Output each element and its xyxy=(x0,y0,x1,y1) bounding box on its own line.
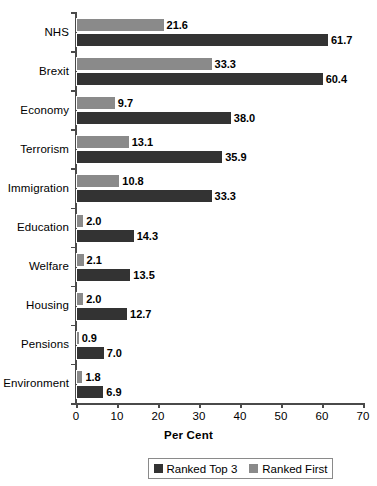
x-axis-tick xyxy=(158,403,160,408)
bar-value-label: 38.0 xyxy=(234,112,255,124)
y-axis-tick xyxy=(71,12,76,14)
bar-ranked-first: 33.3 xyxy=(76,57,213,71)
x-axis-tick-label: 30 xyxy=(193,410,206,422)
category-label: Brexit xyxy=(39,65,69,77)
bar-ranked-top-3: 6.9 xyxy=(76,385,104,399)
category-row: NHS21.661.7 xyxy=(76,12,363,51)
bar-ranked-top-3: 12.7 xyxy=(76,307,128,321)
bar-ranked-first: 21.6 xyxy=(76,18,165,32)
category-label: Education xyxy=(17,221,69,233)
legend-swatch-icon-top3 xyxy=(154,464,163,473)
bar-ranked-top-3: 60.4 xyxy=(76,72,324,86)
legend-swatch-icon-first xyxy=(249,464,258,473)
bar-ranked-first: 2.0 xyxy=(76,292,84,306)
y-axis-tick xyxy=(71,168,76,170)
x-axis-tick xyxy=(240,403,242,408)
category-row: Education2.014.3 xyxy=(76,208,363,247)
bar-ranked-first: 1.8 xyxy=(76,370,83,384)
bar-value-label: 33.3 xyxy=(215,190,236,202)
bar-ranked-first: 0.9 xyxy=(76,331,80,345)
y-axis-tick xyxy=(71,325,76,327)
bar-ranked-top-3: 35.9 xyxy=(76,150,223,164)
category-row: Terrorism13.135.9 xyxy=(76,129,363,168)
chart-legend: Ranked Top 3 Ranked First xyxy=(148,458,333,479)
y-axis-tick xyxy=(71,51,76,53)
x-axis-tick xyxy=(199,403,201,408)
y-axis-tick xyxy=(71,286,76,288)
bar-ranked-first: 10.8 xyxy=(76,174,120,188)
bar-value-label: 10.8 xyxy=(122,175,143,187)
category-label: NHS xyxy=(44,26,69,38)
bar-value-label: 12.7 xyxy=(130,308,151,320)
legend-item-ranked-first: Ranked First xyxy=(249,463,327,475)
bar-value-label: 21.6 xyxy=(167,19,188,31)
category-row: Brexit33.360.4 xyxy=(76,51,363,90)
category-row: Pensions0.97.0 xyxy=(76,325,363,364)
category-label: Housing xyxy=(26,299,69,311)
category-label: Economy xyxy=(20,104,69,116)
category-label: Pensions xyxy=(21,338,69,350)
bar-ranked-top-3: 38.0 xyxy=(76,111,232,125)
bar-value-label: 35.9 xyxy=(225,151,246,163)
bar-value-label: 2.0 xyxy=(86,215,101,227)
legend-label-first: Ranked First xyxy=(262,463,327,475)
bar-ranked-top-3: 13.5 xyxy=(76,268,131,282)
x-axis-tick-label: 50 xyxy=(275,410,288,422)
category-label: Terrorism xyxy=(20,143,69,155)
x-axis-tick-label: 40 xyxy=(234,410,247,422)
y-axis-tick xyxy=(71,129,76,131)
bar-value-label: 13.5 xyxy=(133,269,154,281)
bar-value-label: 0.9 xyxy=(82,332,97,344)
bar-ranked-first: 2.0 xyxy=(76,214,84,228)
plot-area: NHS21.661.7Brexit33.360.4Economy9.738.0T… xyxy=(76,12,363,403)
bar-value-label: 61.7 xyxy=(331,34,352,46)
y-axis-tick xyxy=(71,364,76,366)
bar-value-label: 9.7 xyxy=(118,97,133,109)
bar-value-label: 2.1 xyxy=(87,254,102,266)
bar-value-label: 2.0 xyxy=(86,293,101,305)
y-axis-tick xyxy=(71,247,76,249)
legend-item-ranked-top-3: Ranked Top 3 xyxy=(154,463,238,475)
bar-ranked-top-3: 14.3 xyxy=(76,229,135,243)
x-axis-tick xyxy=(322,403,324,408)
category-row: Housing2.012.7 xyxy=(76,286,363,325)
x-axis-tick-label: 10 xyxy=(111,410,124,422)
category-row: Economy9.738.0 xyxy=(76,90,363,129)
x-axis-tick-label: 60 xyxy=(316,410,329,422)
x-axis-tick xyxy=(363,403,365,408)
bar-ranked-first: 2.1 xyxy=(76,253,85,267)
x-axis-tick xyxy=(76,403,78,408)
bar-value-label: 6.9 xyxy=(106,386,121,398)
x-axis-title: Per Cent xyxy=(0,429,377,441)
bar-ranked-top-3: 7.0 xyxy=(76,346,105,360)
bar-ranked-first: 9.7 xyxy=(76,96,116,110)
x-axis-tick-label: 0 xyxy=(73,410,79,422)
x-axis-tick xyxy=(281,403,283,408)
y-axis-tick xyxy=(71,208,76,210)
x-axis-tick-label: 70 xyxy=(357,410,370,422)
category-row: Immigration10.833.3 xyxy=(76,168,363,207)
bar-ranked-top-3: 33.3 xyxy=(76,189,213,203)
bar-value-label: 7.0 xyxy=(107,347,122,359)
category-label: Welfare xyxy=(29,260,69,272)
x-axis-tick-label: 20 xyxy=(152,410,165,422)
bar-value-label: 60.4 xyxy=(326,73,347,85)
y-axis-tick xyxy=(71,90,76,92)
category-label: Immigration xyxy=(8,182,69,194)
bar-value-label: 1.8 xyxy=(85,371,100,383)
bar-value-label: 13.1 xyxy=(132,136,153,148)
bar-value-label: 14.3 xyxy=(137,230,158,242)
bar-ranked-top-3: 61.7 xyxy=(76,33,329,47)
bar-value-label: 33.3 xyxy=(215,58,236,70)
bar-ranked-first: 13.1 xyxy=(76,135,130,149)
chart-page: NHS21.661.7Brexit33.360.4Economy9.738.0T… xyxy=(0,0,377,486)
category-label: Environment xyxy=(3,377,69,389)
category-row: Environment1.86.9 xyxy=(76,364,363,403)
legend-label-top3: Ranked Top 3 xyxy=(167,463,238,475)
x-axis-tick xyxy=(117,403,119,408)
category-row: Welfare2.113.5 xyxy=(76,247,363,286)
